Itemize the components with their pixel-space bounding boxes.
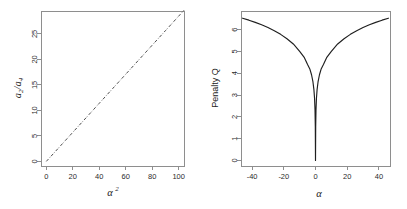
right-y-axis-title: Penalty Q: [210, 68, 220, 108]
left-ytick-label: 0: [30, 159, 39, 163]
left-ticklabel-group: 0204060801000510152025: [30, 30, 185, 181]
right-ytick-label: 0: [230, 158, 239, 162]
right-data-series: [243, 18, 389, 160]
left-ytick-label: 15: [30, 81, 39, 89]
right-ticklabel-group: -40-20020400123456: [230, 27, 383, 181]
left-ytick-label: 20: [30, 55, 39, 63]
right-x-axis-title: α: [316, 188, 322, 199]
right-panel-svg: -40-20020400123456 α Penalty Q: [204, 0, 407, 209]
left-y-title-a4-sub: 4: [17, 77, 25, 81]
left-xtick-label: 60: [122, 172, 130, 181]
right-xtick-label: -40: [247, 172, 258, 181]
right-xtick-label: 20: [343, 172, 351, 181]
left-xtick-label: 0: [44, 172, 48, 181]
right-xtick-label: 40: [375, 172, 383, 181]
left-y-axis-title: a2/a4: [12, 77, 25, 98]
left-panel-svg: 0204060801000510152025 α 2 a2/a4: [0, 0, 204, 209]
left-xtick-label: 80: [148, 172, 156, 181]
left-xtick-label: 100: [172, 172, 185, 181]
right-xtick-label: -20: [278, 172, 289, 181]
left-x-axis-title-exponent: 2: [115, 185, 119, 193]
left-ytick-label: 25: [30, 30, 39, 38]
right-ytick-label: 2: [230, 115, 239, 119]
right-y-axis-title-text: Penalty Q: [210, 68, 220, 108]
left-xtick-label: 40: [95, 172, 103, 181]
left-xtick-label: 20: [69, 172, 77, 181]
right-ytick-label: 5: [230, 49, 239, 53]
right-ytick-label: 6: [230, 27, 239, 31]
right-xtick-label: 0: [313, 172, 317, 181]
right-ytick-label: 4: [230, 71, 239, 75]
left-ytick-label: 5: [30, 134, 39, 138]
right-ytick-label: 1: [230, 137, 239, 141]
right-ytick-label: 3: [230, 93, 239, 97]
left-y-axis-title-text: a2/a4: [12, 77, 25, 98]
chart-panel-left: 0204060801000510152025 α 2 a2/a4: [0, 0, 204, 209]
chart-panel-right: -40-20020400123456 α Penalty Q: [204, 0, 407, 209]
left-data-series: [46, 10, 184, 161]
right-tick-group: [237, 30, 379, 170]
left-x-axis-title: α: [107, 187, 113, 198]
left-ytick-label: 10: [30, 106, 39, 114]
left-tick-group: [37, 34, 179, 170]
figure-container: 0204060801000510152025 α 2 a2/a4 -40-200…: [0, 0, 407, 209]
